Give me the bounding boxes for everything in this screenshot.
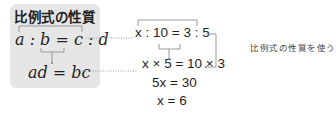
connector-lines: [0, 0, 322, 121]
